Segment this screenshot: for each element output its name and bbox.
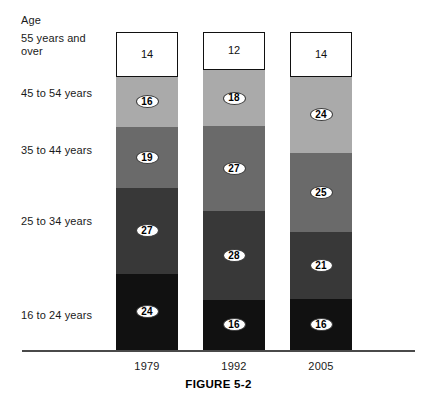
bar-segment[interactable]: 12 (203, 32, 265, 70)
stacked-bar-plot: 242719161416282718121621252414 (0, 0, 437, 397)
segment-value: 12 (228, 45, 240, 56)
bar-segment[interactable]: 27 (116, 188, 178, 274)
bar-segment[interactable]: 16 (203, 300, 265, 350)
segment-value-badge: 27 (136, 224, 159, 237)
year-axis-label: 1979 (116, 360, 178, 372)
bar-segment[interactable]: 14 (290, 32, 352, 77)
axis-baseline (22, 350, 415, 352)
figure-container: Age 55 years and over45 to 54 years35 to… (0, 0, 437, 397)
segment-value-badge: 24 (136, 305, 159, 318)
segment-value-badge: 19 (136, 151, 159, 164)
bar-segment[interactable]: 21 (290, 232, 352, 299)
segment-value-badge: 16 (136, 95, 159, 108)
bar-segment[interactable]: 27 (203, 126, 265, 211)
segment-value-badge: 24 (310, 108, 333, 121)
segment-value: 14 (141, 49, 153, 60)
segment-value-badge: 21 (310, 259, 333, 272)
year-axis-label: 1992 (203, 360, 265, 372)
figure-caption: FIGURE 5-2 (0, 378, 437, 390)
segment-value-badge: 27 (223, 162, 246, 175)
segment-value-badge: 28 (223, 249, 246, 262)
bar-segment[interactable]: 24 (290, 77, 352, 153)
bar-segment[interactable]: 14 (116, 32, 178, 77)
segment-value-badge: 16 (310, 318, 333, 331)
stacked-bar[interactable]: 2427191614 (116, 32, 178, 350)
stacked-bar[interactable]: 1621252414 (290, 32, 352, 350)
stacked-bar[interactable]: 1628271812 (203, 32, 265, 350)
segment-value: 14 (315, 49, 327, 60)
segment-value-badge: 25 (310, 186, 333, 199)
segment-value-badge: 16 (223, 318, 246, 331)
bar-segment[interactable]: 28 (203, 211, 265, 299)
year-axis-label: 2005 (290, 360, 352, 372)
segment-value-badge: 18 (223, 92, 246, 105)
bar-segment[interactable]: 19 (116, 127, 178, 187)
bar-segment[interactable]: 24 (116, 274, 178, 350)
bar-segment[interactable]: 25 (290, 153, 352, 233)
bar-segment[interactable]: 16 (116, 77, 178, 128)
bar-segment[interactable]: 16 (290, 299, 352, 350)
bar-segment[interactable]: 18 (203, 70, 265, 127)
